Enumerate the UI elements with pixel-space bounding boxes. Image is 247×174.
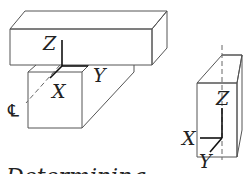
left-x-label: X xyxy=(50,80,67,102)
right-x-label: X xyxy=(180,127,197,149)
right-block-top-face xyxy=(197,55,242,83)
caption-text: Determining xyxy=(5,164,146,174)
top-beam-front-face xyxy=(10,29,152,65)
right-y-axis-line xyxy=(210,138,222,152)
right-y-label: Y xyxy=(199,150,214,172)
right-block-right-face xyxy=(237,55,242,157)
centerline-symbol: ℄ xyxy=(7,100,19,120)
lower-block-top-left-edge xyxy=(28,65,36,72)
right-z-label: Z xyxy=(215,87,230,109)
left-z-label: Z xyxy=(42,32,57,54)
top-beam-top-face xyxy=(10,11,167,29)
diagram-canvas: Z Y X ℄ Z X Y Determining xyxy=(0,0,247,174)
top-beam-right-face xyxy=(152,11,167,65)
lower-block-side-diagonal xyxy=(82,72,134,128)
right-assembly: Z X Y xyxy=(180,45,242,172)
left-assembly: Z Y X ℄ xyxy=(7,11,167,128)
lower-block xyxy=(28,65,134,128)
left-y-label: Y xyxy=(93,64,108,86)
top-beam xyxy=(10,11,167,65)
right-axes xyxy=(200,108,222,152)
